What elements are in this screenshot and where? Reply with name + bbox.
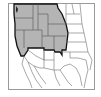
western-us-map bbox=[0, 0, 101, 97]
map-container bbox=[0, 0, 101, 97]
